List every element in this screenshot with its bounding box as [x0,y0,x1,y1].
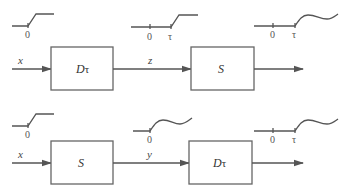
top-row: 0 0 τ 0 τ x Dτ z S [12,14,338,90]
bottom-delay-block-label: Dτ [212,156,227,170]
bottom-row: 0 0 0 τ x S y Dτ [12,114,338,184]
top-output-tick-tau: τ [292,29,296,40]
top-intermediate-tick-tau: τ [168,31,172,42]
bottom-system-block-label: S [78,156,84,170]
bottom-input-label: x [17,148,23,160]
top-output-signal-graph: 0 τ [254,14,338,40]
top-input-label: x [17,54,23,66]
top-intermediate-tick-0: 0 [147,31,152,42]
bottom-intermediate-tick-0: 0 [147,134,152,145]
bottom-input-tick-0: 0 [25,129,30,140]
top-system-block-label: S [218,62,224,76]
top-input-tick-0: 0 [25,29,30,40]
top-delay-block-label: Dτ [75,62,90,76]
bottom-output-tick-tau: τ [292,134,296,145]
bottom-intermediate-label: y [146,148,152,160]
bottom-input-signal-graph: 0 [12,114,54,140]
top-intermediate-label: z [147,54,153,66]
bottom-output-signal-graph: 0 τ [254,119,338,145]
bottom-output-tick-0: 0 [270,134,275,145]
diagram-canvas: 0 0 τ 0 τ x Dτ z S [0,0,351,194]
top-input-signal-graph: 0 [12,14,54,40]
bottom-intermediate-signal-graph: 0 [133,118,192,145]
top-output-tick-0: 0 [270,29,275,40]
top-intermediate-signal-graph: 0 τ [131,15,198,42]
